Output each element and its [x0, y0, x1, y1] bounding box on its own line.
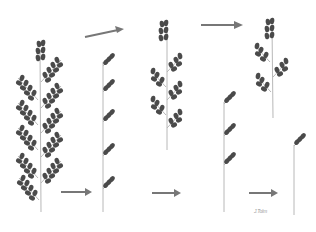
artist-signature: J.Tolm: [254, 208, 267, 214]
arrow-icon: [152, 189, 181, 197]
plant-stage-2: [102, 52, 116, 212]
arrow-icon: [249, 189, 278, 197]
plant-stage-3: [150, 19, 183, 150]
plant-stage-1: [15, 39, 64, 212]
plant-stages-diagram: [0, 0, 316, 232]
arrow-icon: [85, 26, 124, 37]
arrow-icon: [61, 188, 92, 196]
arrow-icon: [201, 21, 243, 29]
plant-stage-6: [293, 132, 307, 215]
plant-stage-5: [223, 90, 237, 212]
plant-stage-4: [254, 17, 289, 118]
